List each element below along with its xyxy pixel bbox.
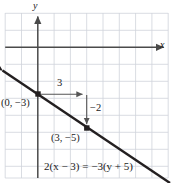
graph-canvas — [0, 0, 176, 183]
x-axis-label: x — [160, 40, 164, 50]
equation-label: 2(x − 3) = −3(y + 5) — [44, 161, 133, 172]
y-intercept-point-label: (0, −3) — [1, 98, 30, 109]
graph-figure: x y 3 −2 (0, −3) (3, −5) 2(x − 3) = −3(y… — [0, 0, 176, 183]
point-y-intercept — [35, 91, 40, 96]
rise-label: −2 — [90, 103, 101, 114]
y-axis-label: y — [33, 1, 37, 11]
second-point-label: (3, −5) — [51, 133, 80, 144]
run-label: 3 — [57, 78, 62, 89]
point-second — [84, 125, 89, 130]
